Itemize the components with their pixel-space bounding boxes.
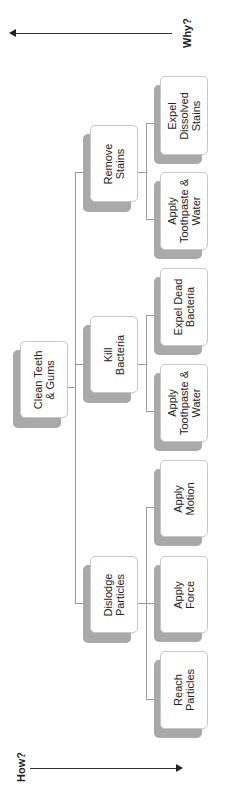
node-box: Expel Dissolved Stains bbox=[160, 76, 208, 155]
how-label: How? bbox=[15, 752, 27, 782]
leaf-label: Reach Particles bbox=[172, 669, 196, 711]
kill-bacteria-vertical bbox=[146, 315, 147, 412]
leaf-label: Apply Toothpaste & Water bbox=[166, 371, 202, 435]
node-box: Apply Force bbox=[160, 556, 208, 633]
leaf-label: Apply Force bbox=[172, 580, 196, 608]
how-arrow-line bbox=[30, 768, 178, 769]
node-box: Apply Toothpaste & Water bbox=[160, 172, 208, 250]
branch-label: Remove Stains bbox=[102, 143, 126, 184]
remove-stains-vertical bbox=[146, 123, 147, 220]
node-box: Kill Bacteria bbox=[90, 316, 138, 393]
spine-connector bbox=[75, 172, 76, 604]
node-box: Apply Motion bbox=[160, 460, 208, 537]
why-label: Why? bbox=[181, 18, 193, 48]
branch-label: Kill Bacteria bbox=[102, 334, 126, 374]
branch-label: Dislodge Particles bbox=[102, 573, 126, 616]
root-label: Clean Teeth & Gums bbox=[32, 350, 56, 409]
node-box: Clean Teeth & Gums bbox=[20, 341, 68, 418]
leaf-label: Apply Toothpaste & Water bbox=[166, 179, 202, 243]
node-box: Remove Stains bbox=[90, 125, 138, 202]
leaf-label: Apply Motion bbox=[172, 482, 196, 515]
node-box: Reach Particles bbox=[160, 651, 208, 729]
leaf-label: Expel Dead Bacteria bbox=[172, 279, 196, 336]
node-box: Expel Dead Bacteria bbox=[160, 268, 208, 346]
node-box: Dislodge Particles bbox=[90, 556, 138, 633]
why-arrow-line bbox=[14, 33, 172, 34]
how-arrow-head-icon bbox=[176, 764, 183, 772]
leaf-label: Expel Dissolved Stains bbox=[166, 92, 202, 140]
node-box: Apply Toothpaste & Water bbox=[160, 364, 208, 442]
